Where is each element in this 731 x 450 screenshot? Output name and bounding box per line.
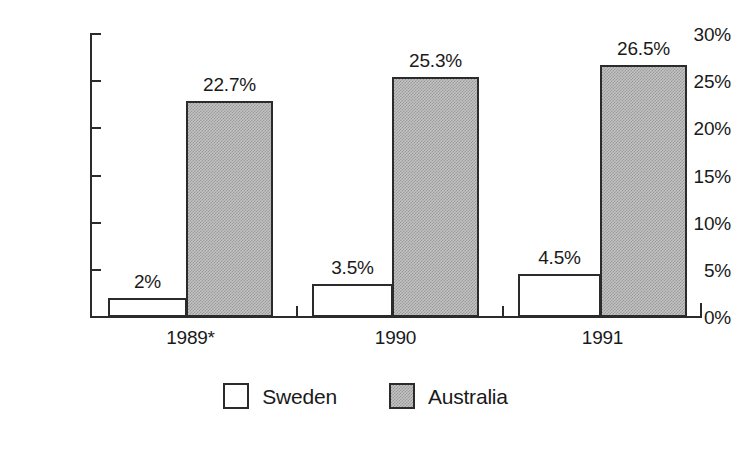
legend-label-sweden: Sweden: [262, 386, 337, 407]
bar-australia-1989: [186, 101, 273, 317]
legend-label-australia: Australia: [428, 386, 508, 407]
bar-label-sweden-1989: 2%: [108, 272, 187, 291]
y-axis-tick-25: [92, 80, 101, 82]
y-axis-tick-15: [92, 175, 101, 177]
legend-swatch-sweden-icon: [223, 383, 249, 409]
chart-legend: Sweden Australia: [0, 383, 731, 409]
legend-item-australia: Australia: [389, 383, 508, 409]
bar-label-australia-1990: 25.3%: [392, 51, 479, 70]
y-axis-tick-20: [92, 127, 101, 129]
y-axis-tick-10: [92, 222, 101, 224]
bar-chart: 30% 25% 20% 15% 10% 5% 0% 2% 22.7% 1989*…: [0, 0, 731, 450]
y-axis-tick-30: [92, 33, 101, 35]
bar-australia-1990: [392, 77, 479, 317]
legend-item-sweden: Sweden: [223, 383, 337, 409]
x-axis-category-1990: 1990: [312, 328, 479, 347]
x-axis-separator-tick-1: [296, 306, 298, 317]
bar-sweden-1989: [108, 298, 187, 317]
legend-swatch-australia-icon: [389, 383, 415, 409]
bar-label-australia-1991: 26.5%: [600, 39, 687, 58]
bar-label-sweden-1990: 3.5%: [312, 258, 393, 277]
x-axis-category-1989: 1989*: [108, 328, 273, 347]
x-axis-separator-tick-2: [502, 306, 504, 317]
bar-sweden-1991: [518, 274, 601, 317]
bar-label-australia-1989: 22.7%: [186, 75, 273, 94]
bar-label-sweden-1991: 4.5%: [518, 248, 601, 267]
bar-sweden-1990: [312, 284, 393, 317]
x-axis-end-tick: [700, 303, 702, 317]
x-axis-category-1991: 1991: [518, 328, 687, 347]
y-axis-tick-5: [92, 269, 101, 271]
bar-australia-1991: [600, 65, 687, 317]
